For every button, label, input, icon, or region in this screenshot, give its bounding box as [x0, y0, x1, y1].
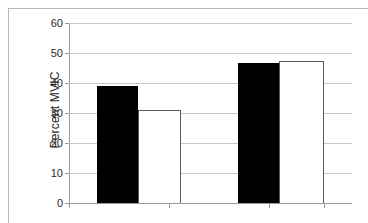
bar [97, 86, 138, 203]
bar [138, 110, 181, 203]
y-tick-label: 0 [57, 198, 63, 209]
y-tick-label: 20 [51, 138, 63, 149]
x-axis-line [69, 203, 352, 204]
x-tick-mark [324, 203, 325, 208]
x-tick-mark [269, 203, 270, 208]
y-tick-label: 10 [51, 168, 63, 179]
plot-area: 6050403020100 [69, 23, 352, 203]
chart-figure: Percent MVIC 6050403020100 [0, 0, 360, 219]
y-tick-mark [65, 23, 69, 24]
gridline [69, 23, 352, 24]
bar [279, 61, 324, 203]
bar [238, 63, 279, 203]
y-tick-mark [65, 143, 69, 144]
y-tick-mark [65, 173, 69, 174]
y-tick-mark [65, 113, 69, 114]
y-tick-label: 30 [51, 108, 63, 119]
y-tick-mark [65, 83, 69, 84]
gridline [69, 53, 352, 54]
y-tick-mark [65, 53, 69, 54]
x-tick-mark [169, 203, 170, 208]
y-tick-label: 40 [51, 78, 63, 89]
y-tick-label: 60 [51, 18, 63, 29]
x-tick-mark [69, 203, 70, 208]
y-tick-label: 50 [51, 48, 63, 59]
